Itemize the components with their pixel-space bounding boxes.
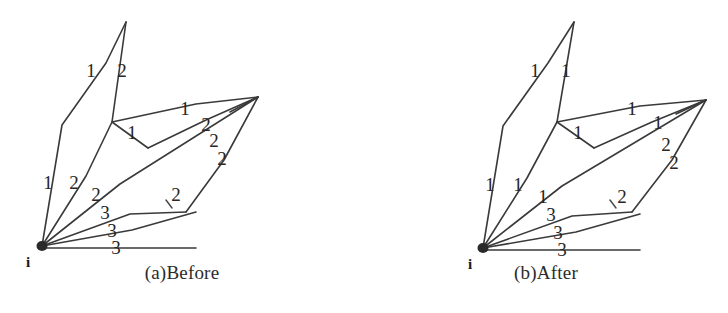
edge-label: 1 xyxy=(513,175,523,194)
panel-caption-before: (a)Before xyxy=(0,262,364,284)
edge-label: 1 xyxy=(573,123,583,142)
origin-node-dot xyxy=(478,243,489,253)
diagram-after xyxy=(364,0,728,265)
panel-before: i 1 2 1 1 2 2 2 1 2 2 2 3 3 3 (a)Before xyxy=(0,0,364,313)
edge-label: 1 xyxy=(180,99,190,118)
edge-label: 1 xyxy=(86,61,96,80)
edge-label: 1 xyxy=(127,123,137,142)
figure-two-panel-diagram: i 1 2 1 1 2 2 2 1 2 2 2 3 3 3 (a)Before xyxy=(0,0,728,313)
edge-label: 1 xyxy=(485,175,495,194)
edge-label: 2 xyxy=(171,185,181,204)
diagram-before xyxy=(0,0,364,265)
edge-label: 1 xyxy=(530,61,540,80)
edge-label: 2 xyxy=(217,149,227,168)
edge-label: 2 xyxy=(117,61,127,80)
edge-label: 2 xyxy=(617,187,627,206)
origin-node-dot xyxy=(37,241,48,251)
edge-label: 1 xyxy=(653,113,663,132)
tick-lowvertex xyxy=(610,200,616,208)
edge-label: 3 xyxy=(111,238,121,257)
edge-chain-left-outer xyxy=(483,22,574,248)
edge-label: 1 xyxy=(627,99,637,118)
edge-label: 2 xyxy=(69,173,79,192)
panel-after: i 1 1 1 1 1 2 2 1 1 1 2 3 3 3 (b)After xyxy=(364,0,728,313)
panel-caption-after: (b)After xyxy=(364,262,728,284)
edge-label: 2 xyxy=(669,153,679,172)
edge-label: 1 xyxy=(561,61,571,80)
edge-label: 3 xyxy=(557,240,567,259)
edge-chain-left-inner xyxy=(483,22,574,248)
edge-label: 1 xyxy=(43,173,53,192)
